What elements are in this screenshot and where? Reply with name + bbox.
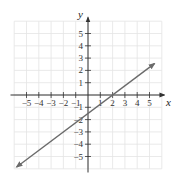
y-tick-label: 2 (79, 65, 84, 75)
y-tick-label: 1 (79, 78, 84, 88)
x-axis-label: x (165, 96, 171, 108)
y-tick-label: −1 (73, 102, 83, 112)
y-axis-label: y (77, 8, 83, 20)
y-tick-label: −5 (73, 152, 83, 162)
x-tick-label: 2 (110, 98, 115, 108)
y-tick-label: 3 (79, 53, 84, 63)
y-tick-label: 5 (79, 29, 84, 39)
line-series (17, 64, 155, 167)
coordinate-plane: −5−4−3−2−112345−5−4−3−2−112345xy (0, 0, 175, 173)
x-tick-label: 5 (147, 98, 152, 108)
y-tick-label: 4 (79, 41, 84, 51)
y-tick-label: −4 (73, 139, 83, 149)
axes (11, 18, 165, 173)
x-tick-label: −3 (46, 98, 56, 108)
x-tick-label: −2 (59, 98, 69, 108)
x-tick-label: −5 (22, 98, 32, 108)
x-tick-label: −4 (34, 98, 44, 108)
plotted-line (17, 64, 155, 167)
x-tick-label: 4 (135, 98, 140, 108)
x-tick-label: 3 (123, 98, 128, 108)
tick-labels: −5−4−3−2−112345−5−4−3−2−112345xy (22, 8, 171, 161)
y-tick-label: −3 (73, 127, 83, 137)
